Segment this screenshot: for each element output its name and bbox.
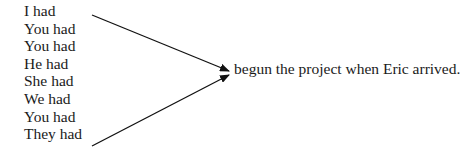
arrow-top [92, 15, 229, 71]
arrow-bottom [92, 75, 229, 146]
predicate-text: begun the project when Eric arrived. [234, 60, 460, 78]
arrows [0, 0, 475, 158]
